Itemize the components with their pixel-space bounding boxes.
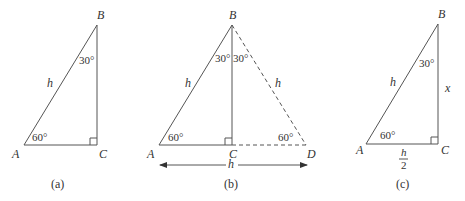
caption-c: (c): [396, 177, 409, 191]
angle-label-b-left: 30°: [215, 52, 230, 64]
right-angle-marker: [90, 138, 97, 145]
angle-label-a: 60°: [168, 131, 183, 143]
vertex-label-b: B: [438, 7, 446, 21]
angle-label-a: 60°: [32, 131, 47, 143]
angle-label-a: 60°: [380, 129, 395, 141]
side-ab: [24, 25, 97, 145]
side-ab: [159, 25, 232, 145]
angle-label-b: 30°: [79, 54, 94, 66]
right-angle-marker: [431, 137, 438, 144]
triangle-diagram: B A C h 30° 60° (a) B A C D h h 30° 30° …: [0, 0, 465, 201]
vertex-label-c: C: [441, 143, 450, 157]
vertex-label-a: A: [355, 143, 364, 157]
fraction-numerator: h: [401, 146, 407, 158]
angle-label-b: 30°: [419, 57, 434, 69]
side-ab: [366, 24, 438, 144]
vertex-label-a: A: [11, 147, 20, 161]
figure-b: B A C D h h 30° 30° 60° 60° h (b): [146, 8, 316, 191]
figure-a: B A C h 30° 60° (a): [11, 8, 108, 191]
vertex-label-b: B: [97, 8, 105, 22]
vertex-label-b: B: [229, 8, 237, 22]
base-arrow-label: h: [228, 157, 234, 171]
figure-c: B A C h x 30° 60° h 2 (c): [355, 7, 451, 191]
side-bc-label: x: [444, 81, 451, 95]
angle-label-b-right: 30°: [233, 52, 248, 64]
hypotenuse-label: h: [390, 75, 396, 89]
right-angle-marker: [225, 138, 232, 145]
hypotenuse-label: h: [47, 76, 53, 90]
vertex-label-d: D: [306, 147, 316, 161]
side-bd-label: h: [275, 76, 281, 90]
fraction-denominator: 2: [401, 159, 407, 171]
angle-label-d: 60°: [278, 131, 293, 143]
vertex-label-c: C: [99, 147, 108, 161]
fraction-h-over-2: h 2: [399, 146, 408, 171]
dashed-side-bd: [232, 25, 306, 145]
side-ab-label: h: [185, 76, 191, 90]
vertex-label-a: A: [146, 147, 155, 161]
caption-b: (b): [224, 177, 238, 191]
caption-a: (a): [51, 177, 64, 191]
